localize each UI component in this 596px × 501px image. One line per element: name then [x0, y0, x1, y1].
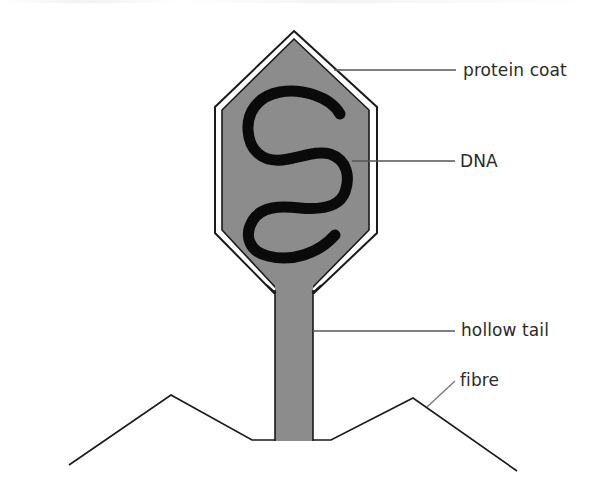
hollow-tail [275, 286, 313, 441]
leader-fibre [427, 381, 455, 407]
label-dna: DNA [460, 153, 498, 170]
right-fibre [313, 398, 517, 471]
left-fibre [69, 395, 275, 465]
label-protein-coat: protein coat [463, 62, 567, 79]
label-fibre: fibre [460, 372, 499, 389]
phage-tail [267, 285, 321, 441]
label-hollow-tail: hollow tail [461, 322, 549, 339]
